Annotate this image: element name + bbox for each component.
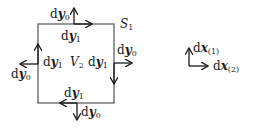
right-normal-label: dy0 bbox=[117, 44, 137, 60]
left-normal-label: dy0 bbox=[11, 68, 31, 84]
bottom-normal-label: dy0 bbox=[81, 106, 101, 122]
axis-right-label: dx(2) bbox=[213, 60, 239, 76]
left-tangent-label: dy1 bbox=[43, 56, 63, 72]
region-label: V2 bbox=[70, 56, 84, 72]
right-tangent-label: dy1 bbox=[88, 56, 108, 72]
top-tangent-label: dy1 bbox=[61, 30, 81, 46]
surface-label: S1 bbox=[120, 18, 133, 34]
bottom-tangent-label: dy1 bbox=[64, 87, 84, 103]
axis-up-label: dx(1) bbox=[193, 42, 219, 58]
top-normal-label: dy0 bbox=[50, 8, 70, 24]
